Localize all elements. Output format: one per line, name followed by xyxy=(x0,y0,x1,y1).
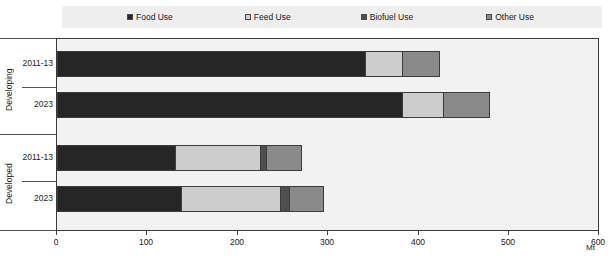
y-group-separator xyxy=(0,230,56,231)
x-tick-label: 100 xyxy=(139,237,153,247)
bar-segment-feed-use[interactable] xyxy=(402,92,443,118)
bar-segment-food-use[interactable] xyxy=(57,145,175,171)
legend-item-other-use[interactable]: Other Use xyxy=(486,13,534,22)
legend-label: Biofuel Use xyxy=(370,13,413,22)
bar-developed-2011-13[interactable] xyxy=(57,145,302,171)
bar-segment-food-use[interactable] xyxy=(57,92,402,118)
x-axis-unit-label: Mt xyxy=(586,243,595,252)
y-group-label-developing: Developing xyxy=(4,52,14,128)
y-category-label-developed-2023: 2023 xyxy=(34,193,53,203)
x-tick-mark xyxy=(56,231,57,235)
x-axis: 0 100 200 300 400 500 600 xyxy=(56,231,599,251)
x-tick-label: 300 xyxy=(320,237,334,247)
y-category-label-developing-2023: 2023 xyxy=(34,99,53,109)
bar-segment-feed-use[interactable] xyxy=(365,51,402,77)
chart-legend: Food Use Feed Use Biofuel Use Other Use xyxy=(62,6,602,28)
x-tick-mark xyxy=(418,231,419,235)
square-swatch-icon xyxy=(127,14,133,20)
legend-label: Feed Use xyxy=(254,13,291,22)
x-tick-mark xyxy=(327,231,328,235)
x-tick-mark xyxy=(237,231,238,235)
bar-segment-food-use[interactable] xyxy=(57,51,365,77)
y-category-label-developed-2011-13: 2011-13 xyxy=(22,152,53,162)
y-tick-divider xyxy=(22,181,56,182)
y-group-separator xyxy=(0,134,56,135)
square-swatch-icon xyxy=(245,14,251,20)
bar-segment-feed-use[interactable] xyxy=(175,145,260,171)
y-axis: 2011-13 2023 2011-13 2023 Developing Dev… xyxy=(0,38,56,231)
y-tick-divider xyxy=(22,87,56,88)
x-tick-label: 400 xyxy=(411,237,425,247)
x-tick-label: 200 xyxy=(230,237,244,247)
y-group-label-developed: Developed xyxy=(4,146,14,222)
x-tick-label: 0 xyxy=(54,237,59,247)
legend-label: Other Use xyxy=(495,13,534,22)
legend-item-biofuel-use[interactable]: Biofuel Use xyxy=(361,13,413,22)
y-category-label-developing-2011-13: 2011-13 xyxy=(22,58,53,68)
chart-plot-area xyxy=(56,38,599,231)
bar-segment-other-use[interactable] xyxy=(266,145,302,171)
legend-label: Food Use xyxy=(136,13,173,22)
square-swatch-icon xyxy=(486,14,492,20)
bar-developing-2023[interactable] xyxy=(57,92,490,118)
bar-segment-biofuel-use[interactable] xyxy=(280,186,289,212)
bar-segment-feed-use[interactable] xyxy=(181,186,280,212)
x-tick-label: 500 xyxy=(501,237,515,247)
square-swatch-icon xyxy=(361,14,367,20)
legend-item-feed-use[interactable]: Feed Use xyxy=(245,13,291,22)
bar-segment-other-use[interactable] xyxy=(443,92,490,118)
bars-container xyxy=(57,39,598,230)
bar-developed-2023[interactable] xyxy=(57,186,324,212)
x-tick-mark xyxy=(146,231,147,235)
bar-segment-other-use[interactable] xyxy=(289,186,324,212)
bar-developing-2011-13[interactable] xyxy=(57,51,440,77)
y-group-separator xyxy=(0,38,56,39)
legend-item-food-use[interactable]: Food Use xyxy=(127,13,173,22)
bar-segment-other-use[interactable] xyxy=(402,51,440,77)
x-tick-mark xyxy=(598,231,599,235)
bar-segment-food-use[interactable] xyxy=(57,186,181,212)
x-tick-mark xyxy=(508,231,509,235)
